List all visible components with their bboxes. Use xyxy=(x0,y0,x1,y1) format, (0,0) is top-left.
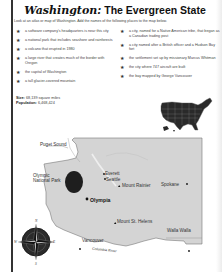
star-bullet-icon: ★ xyxy=(16,29,25,34)
svg-text:N: N xyxy=(34,219,38,223)
star-bullet-icon: ★ xyxy=(16,70,25,75)
map-label-everett: Everett xyxy=(105,171,120,176)
title-state-name: Washington: xyxy=(24,4,101,17)
state-facts: Size: 68,139 square miles Population: 6,… xyxy=(16,96,60,107)
clue-item: ★the city where 747 aircraft are built xyxy=(120,65,220,70)
worksheet-page: Washington: The Evergreen State Look at … xyxy=(0,0,222,272)
clue-item: ★a software company's headquarters is ne… xyxy=(16,29,116,34)
star-bullet-icon: ★ xyxy=(120,29,129,34)
clue-list-left: ★a software company's headquarters is ne… xyxy=(16,29,116,88)
map-label-spokane: Spokane xyxy=(161,182,179,187)
star-bullet-icon: ★ xyxy=(120,43,129,48)
map-label-mount-st-helens: Mount St. Helens xyxy=(117,219,152,224)
clue-item: ★the capital of Washington xyxy=(16,70,116,75)
left-margin-rule xyxy=(11,0,13,272)
population-fact: Population: 6,468,424 xyxy=(16,101,60,106)
clue-item: ★a city named after a British officer an… xyxy=(120,43,220,52)
map-label-vancouver: Vancouver xyxy=(82,238,104,243)
compass-rose-icon: N E S W xyxy=(14,218,56,266)
instructions-text: Look at an atlas or map of Washington. A… xyxy=(14,19,220,23)
star-bullet-icon: ★ xyxy=(16,56,25,61)
us-locator-map-icon xyxy=(158,97,216,133)
clue-item: ★a large river that creates much of the … xyxy=(16,56,116,65)
star-bullet-icon: ★ xyxy=(16,79,25,84)
clue-item: ★a national park that includes seashore … xyxy=(16,38,116,43)
svg-text:W: W xyxy=(14,240,18,244)
page-title: Washington: The Evergreen State xyxy=(12,4,218,17)
star-bullet-icon: ★ xyxy=(120,74,129,79)
svg-text:S: S xyxy=(35,262,37,266)
map-label-walla-walla: Walla Walla xyxy=(167,228,191,233)
map-label-olympic-np-2: National Park xyxy=(33,178,61,183)
clue-item: ★a tall glacier-covered mountain xyxy=(16,79,116,84)
map-label-seattle: Seattle xyxy=(106,177,120,182)
star-bullet-icon: ★ xyxy=(120,56,129,61)
clue-item: ★a volcano that erupted in 1980 xyxy=(16,47,116,52)
clue-item: ★the bay mapped by George Vancouver xyxy=(120,74,220,79)
map-label-olympia: Olympia xyxy=(90,197,110,203)
map-label-puget-sound: Puget Sound xyxy=(40,142,67,147)
star-bullet-icon: ★ xyxy=(16,47,25,52)
star-bullet-icon: ★ xyxy=(120,65,129,70)
clue-item: ★the settlement set up by missionary Mar… xyxy=(120,56,220,61)
title-nickname: The Evergreen State xyxy=(101,4,205,16)
map-label-mount-rainier: Mount Rainier xyxy=(122,183,151,188)
svg-text:E: E xyxy=(52,240,56,244)
clue-list-right: ★a city, named for a Native American tri… xyxy=(120,29,220,83)
clue-item: ★a city, named for a Native American tri… xyxy=(120,29,220,38)
star-bullet-icon: ★ xyxy=(16,38,25,43)
